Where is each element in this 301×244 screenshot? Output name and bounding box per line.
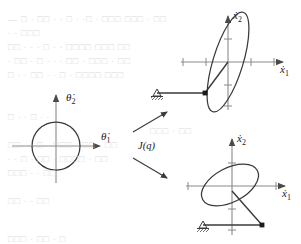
figure-canvas: — □ ∙ □□ ∙ ∙ □ ∙ ∙□ ∙ □□□ □□□ ∙ □□∙ ∙ □□… (0, 0, 301, 244)
arm-link-2-bottom (232, 191, 262, 225)
task-velocity-space-configuration-1: ẋ1 ẋ2 (151, 8, 289, 116)
x2-axis-label-bottom: ẋ2 (236, 132, 246, 147)
map-to-configuration-2-arrow (133, 158, 167, 178)
pin-support-top (151, 89, 163, 100)
x1-axis-label-top: ẋ1 (279, 63, 289, 78)
robot-arm-configuration-2 (197, 191, 264, 232)
velocity-ellipse-bottom (195, 155, 266, 214)
task-velocity-space-configuration-2: ẋ1 ẋ2 (186, 132, 291, 235)
manipulability-ellipsoid-figure: θ̇2 θ̇1 J(q) (0, 0, 301, 244)
x1-axis-label-bottom: ẋ1 (281, 187, 291, 202)
theta1-axis-label: θ̇1 (101, 130, 110, 145)
jacobian-mapping-group: J(q) (133, 112, 167, 178)
theta2-axis-label: θ̇2 (66, 91, 75, 106)
pin-support-bottom (197, 221, 209, 232)
joint-velocity-space: θ̇2 θ̇1 (12, 91, 110, 183)
x2-axis-label-top: ẋ2 (232, 9, 242, 24)
robot-arm-configuration-1 (151, 62, 228, 100)
arm-joint-bottom (260, 223, 265, 228)
jacobian-label: J(q) (138, 140, 155, 152)
map-to-configuration-1-arrow (133, 112, 167, 132)
arm-joint-top (203, 91, 208, 96)
